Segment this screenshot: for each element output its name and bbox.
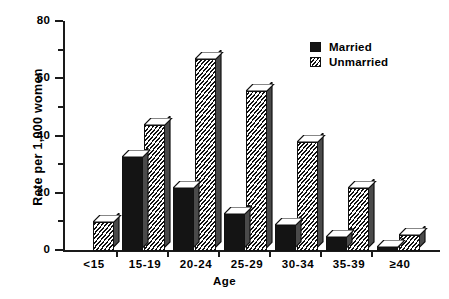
x-tick — [116, 252, 118, 257]
bar-front-face — [93, 222, 114, 251]
legend-item-married: Married — [310, 40, 388, 53]
bar-front-face — [275, 225, 296, 251]
x-tick — [320, 252, 322, 257]
bar-unmarried — [93, 222, 114, 251]
bar-group — [122, 18, 175, 251]
y-tick-label: 60 — [2, 71, 50, 83]
y-tick-minor — [58, 106, 63, 108]
bar-front-face — [326, 237, 347, 251]
bar-top-face — [399, 228, 429, 237]
y-tick-label: 0 — [2, 243, 50, 255]
bar-married — [377, 247, 398, 251]
bar-group — [71, 18, 124, 251]
bar-front-face — [122, 157, 143, 251]
y-tick-minor — [58, 220, 63, 222]
bar-top-face — [275, 218, 305, 227]
bar-top-face — [326, 230, 356, 239]
bar-top-face — [195, 52, 225, 61]
y-tick-label: 80 — [2, 14, 50, 26]
bar-top-face — [348, 181, 378, 190]
bar-top-face — [93, 215, 123, 224]
x-tick — [371, 252, 373, 257]
bar-married — [122, 157, 143, 251]
legend-label-married: Married — [329, 41, 372, 53]
bar-top-face — [224, 207, 254, 216]
bar-married — [326, 237, 347, 251]
bar-top-face — [377, 240, 407, 249]
bar-group — [224, 18, 277, 251]
bar-married — [275, 225, 296, 251]
bar-front-face — [173, 188, 194, 251]
legend-item-unmarried: Unmarried — [310, 55, 388, 68]
bar-top-face — [173, 181, 203, 190]
bar-top-face — [246, 84, 276, 93]
bar-group — [173, 18, 226, 251]
y-tick-major — [55, 249, 63, 251]
y-tick-major — [55, 135, 63, 137]
x-tick — [167, 252, 169, 257]
x-axis-title: Age — [0, 275, 449, 287]
y-tick-major — [55, 192, 63, 194]
x-tick — [218, 252, 220, 257]
legend: Married Unmarried — [310, 40, 388, 70]
bar-top-face — [144, 118, 174, 127]
bar-chart: Rate per 1,000 women 020406080 <1515-192… — [0, 0, 449, 299]
x-tick — [269, 252, 271, 257]
bar-top-face — [122, 150, 152, 159]
y-tick-label: 20 — [2, 186, 50, 198]
bar-top-face — [297, 135, 327, 144]
x-tick-label: ≥40 — [365, 258, 435, 270]
legend-swatch-unmarried-icon — [310, 57, 321, 67]
bar-front-face — [224, 214, 245, 251]
bar-married — [224, 214, 245, 251]
y-tick-major — [55, 77, 63, 79]
y-tick-major — [55, 20, 63, 22]
y-tick-minor — [58, 163, 63, 165]
y-tick-minor — [58, 49, 63, 51]
bar-married — [173, 188, 194, 251]
y-tick-label: 40 — [2, 129, 50, 141]
legend-swatch-married-icon — [310, 42, 321, 52]
legend-label-unmarried: Unmarried — [329, 56, 388, 68]
